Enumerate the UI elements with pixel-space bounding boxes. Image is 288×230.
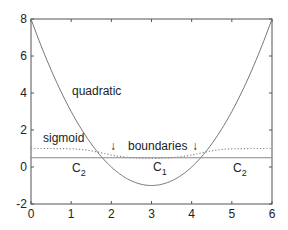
label-sigmoid: sigmoid [43,131,84,145]
y-tick-label: -2 [16,197,27,211]
arrow-left: ↓ [110,139,116,153]
arrow-right: ↓ [192,139,198,153]
y-tick-label: 0 [20,160,27,174]
y-tick-label: 2 [20,123,27,137]
x-tick-label: 0 [28,207,35,221]
x-tick-label: 1 [68,207,75,221]
label-c2-left: C2 [72,161,86,178]
x-tick-label: 5 [228,207,235,221]
label-quadratic: quadratic [72,84,121,98]
x-tick-label: 3 [148,207,155,221]
x-tick-label: 4 [188,207,195,221]
y-tick-label: 6 [20,49,27,63]
chart: 0123456-202468quadraticsigmoid↓boundarie… [0,0,288,230]
y-tick-label: 8 [20,12,27,26]
y-tick-label: 4 [20,86,27,100]
label-boundaries: boundaries [128,139,187,153]
label-c1: C1 [153,160,167,177]
x-tick-label: 6 [269,207,276,221]
x-tick-label: 2 [108,207,115,221]
label-c2-right: C2 [233,161,247,178]
plot-frame [31,19,272,204]
